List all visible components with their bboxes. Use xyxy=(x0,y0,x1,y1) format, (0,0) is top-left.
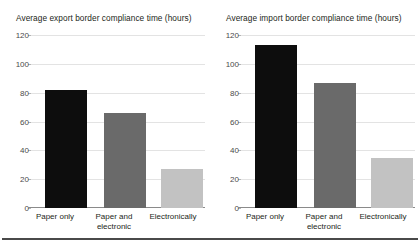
bar-import-paper-only[interactable] xyxy=(255,45,297,208)
category-line: Electronically xyxy=(140,212,206,222)
bar-export-paper-only[interactable] xyxy=(45,90,87,208)
category-line: Paper and xyxy=(293,212,355,222)
category-line: electronic xyxy=(293,222,355,232)
category-label-import-1: Paper and electronic xyxy=(293,212,355,231)
ytick-label-100: 100 xyxy=(16,59,29,68)
chart-title-export: Average export border compliance time (h… xyxy=(16,13,192,23)
gridline-120 xyxy=(31,35,205,36)
ytick-label-80: 80 xyxy=(230,88,239,97)
category-line: Electronically xyxy=(350,212,416,222)
category-label-export-1: Paper and electronic xyxy=(83,212,145,231)
ytick-label-120: 120 xyxy=(16,31,29,40)
category-line: electronic xyxy=(83,222,145,232)
category-line: Paper and xyxy=(83,212,145,222)
category-label-import-0: Paper only xyxy=(234,212,296,222)
ytick-label-20: 20 xyxy=(230,175,239,184)
gridline-100 xyxy=(31,64,205,65)
plot-area-export: 120 100 80 60 40 20 0 xyxy=(31,35,205,208)
ytick-label-60: 60 xyxy=(230,117,239,126)
plot-area-import: 120 100 80 60 40 20 0 xyxy=(241,35,415,208)
category-label-export-2: Electronically xyxy=(140,212,206,222)
ytick-label-100: 100 xyxy=(226,59,239,68)
ytick-label-20: 20 xyxy=(20,175,29,184)
category-line: Paper only xyxy=(24,212,86,222)
figure-container: Average export border compliance time (h… xyxy=(0,0,420,246)
chart-title-import: Average import border compliance time (h… xyxy=(226,13,401,23)
ytick-label-60: 60 xyxy=(20,117,29,126)
chart-panel-import: Average import border compliance time (h… xyxy=(210,0,420,236)
ytick-label-40: 40 xyxy=(20,146,29,155)
bar-import-paper-and-electronic[interactable] xyxy=(314,83,356,208)
chart-panel-export: Average export border compliance time (h… xyxy=(0,0,210,236)
bar-export-paper-and-electronic[interactable] xyxy=(104,113,146,208)
ytick-label-40: 40 xyxy=(230,146,239,155)
category-line: Paper only xyxy=(234,212,296,222)
bar-import-electronically[interactable] xyxy=(371,158,413,208)
category-label-export-0: Paper only xyxy=(24,212,86,222)
ytick-label-80: 80 xyxy=(20,88,29,97)
gridline-120 xyxy=(241,35,415,36)
bar-export-electronically[interactable] xyxy=(161,169,203,208)
ytick-label-120: 120 xyxy=(226,31,239,40)
category-label-import-2: Electronically xyxy=(350,212,416,222)
bottom-divider-rule xyxy=(2,238,418,240)
